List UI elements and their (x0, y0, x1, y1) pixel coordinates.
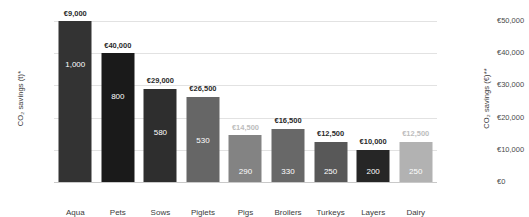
y-axis-left-title: CO₂ savings (t)* (16, 39, 25, 159)
bar-group: 580€29,000 (139, 21, 182, 182)
bar-euro-label: €14,500 (232, 124, 259, 132)
bar-value-label: 250 (409, 168, 422, 176)
x-axis-category-label: Dairy (394, 209, 437, 217)
bar-value-label: 580 (154, 129, 167, 137)
bar-group: 330€16,500 (267, 21, 310, 182)
y-axis-right-tick-label: €0 (497, 178, 529, 186)
bar-group: 200€10,000 (352, 21, 395, 182)
bar-value-label: 200 (366, 168, 379, 176)
bar-euro-label: €29,000 (147, 77, 174, 85)
x-axis-category-label: Layers (352, 209, 395, 217)
bar-group: 290€14,500 (224, 21, 267, 182)
bar-value-label: 800 (111, 93, 124, 101)
bar-euro-label: €12,500 (402, 130, 429, 138)
bar-euro-label: €12,500 (317, 130, 344, 138)
bar-group: 250€12,500 (309, 21, 352, 182)
y-axis-right-tick-label: €40,000 (497, 49, 529, 57)
bar-euro-label: €26,500 (189, 85, 216, 93)
bar-group: 1,000€9,000 (54, 21, 97, 182)
bar-euro-label: €40,000 (104, 42, 131, 50)
x-axis-category-label: Piglets (182, 209, 225, 217)
y-axis-right-tick-label: €30,000 (497, 81, 529, 89)
x-axis-category-label: Broilers (267, 209, 310, 217)
bar-value-label: 290 (239, 168, 252, 176)
bar-pets[interactable] (101, 53, 134, 182)
bar-value-label: 530 (196, 137, 209, 145)
bar-value-label: 1,000 (65, 61, 85, 69)
y-axis-right-tick-label: €50,000 (497, 17, 529, 25)
bar-group: 530€26,500 (182, 21, 225, 182)
y-axis-right-title: CO₂ savings (€)** (482, 39, 491, 159)
bar-euro-label: €10,000 (360, 138, 387, 146)
y-axis-right-tick-label: €10,000 (497, 146, 529, 154)
y-axis-right-tick-label: €20,000 (497, 114, 529, 122)
bar-aqua[interactable] (59, 21, 92, 182)
x-axis-category-label: Pigs (224, 209, 267, 217)
gridline (54, 182, 437, 183)
x-axis-category-label: Sows (139, 209, 182, 217)
bar-value-label: 330 (281, 168, 294, 176)
bar-value-label: 250 (324, 168, 337, 176)
x-axis-category-label: Pets (97, 209, 140, 217)
bar-layers[interactable] (357, 150, 390, 182)
bar-euro-label: €9,000 (64, 10, 87, 18)
plot-area: 0€0200€10,000400€20,000600€30,000800€40,… (54, 21, 437, 182)
bar-group: 800€40,000 (97, 21, 140, 182)
x-axis-category-label: Aqua (54, 209, 97, 217)
bar-group: 250€12,500 (394, 21, 437, 182)
x-axis-category-label: Turkeys (309, 209, 352, 217)
bar-euro-label: €16,500 (274, 117, 301, 125)
